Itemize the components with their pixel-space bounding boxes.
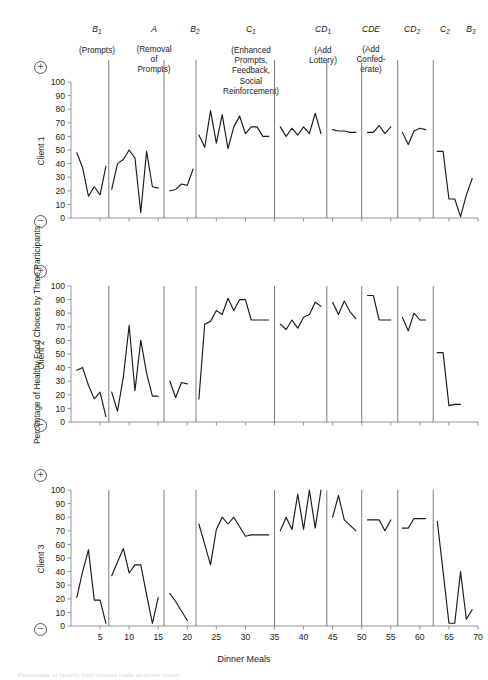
x-tick-label: 5	[98, 632, 103, 642]
y-tick-label: 50	[55, 349, 65, 359]
figure-caption: Percentage of healthy food choices made …	[18, 672, 470, 678]
y-tick-label: 20	[55, 390, 65, 400]
y-tick-label: 80	[55, 308, 65, 318]
y-tick-label: 60	[55, 540, 65, 550]
x-tick-label: 20	[183, 632, 193, 642]
data-series-client-3-CDE	[333, 495, 356, 530]
data-series-client-3-C1	[199, 517, 269, 565]
data-series-client-3-CD2	[368, 520, 391, 531]
x-tick-label: 70	[473, 632, 483, 642]
y-tick-label: 0	[60, 213, 65, 223]
x-tick-label: 50	[357, 632, 367, 642]
y-tick-label: 20	[55, 594, 65, 604]
data-series-client-1-CD1	[280, 113, 321, 136]
x-axis-label: Dinner Meals	[0, 654, 488, 664]
y-tick-label: 80	[55, 104, 65, 114]
x-tick-label: 60	[415, 632, 425, 642]
y-tick-label: 90	[55, 91, 65, 101]
y-tick-label: 100	[51, 77, 66, 87]
y-tick-label: 30	[55, 580, 65, 590]
x-tick-label: 55	[386, 632, 396, 642]
data-series-client-2-C2	[402, 313, 425, 331]
y-tick-label: 60	[55, 132, 65, 142]
data-series-client-2-C1	[199, 298, 269, 399]
panel-3: 0102030405060708090100510152025303540455…	[51, 485, 483, 642]
y-tick-label: 10	[55, 608, 65, 618]
panel-1: 0102030405060708090100	[51, 60, 478, 223]
x-tick-label: 30	[241, 632, 251, 642]
data-series-client-2-CDE	[333, 301, 356, 319]
y-tick-label: 40	[55, 159, 65, 169]
y-tick-label: 30	[55, 376, 65, 386]
y-tick-label: 90	[55, 295, 65, 305]
data-series-client-3-A	[112, 548, 159, 623]
data-series-client-1-CDE	[333, 130, 356, 133]
data-series-client-1-C1	[199, 111, 269, 149]
x-tick-label: 45	[328, 632, 338, 642]
data-series-client-1-A	[112, 150, 159, 213]
data-series-client-3-C2	[402, 519, 425, 529]
data-series-client-3-B1	[77, 550, 106, 623]
data-series-client-2-B3	[437, 353, 460, 406]
y-tick-label: 30	[55, 172, 65, 182]
data-series-client-1-CD2	[368, 126, 391, 134]
y-tick-label: 10	[55, 200, 65, 210]
y-tick-label: 50	[55, 553, 65, 563]
y-tick-label: 70	[55, 322, 65, 332]
data-series-client-3-CD1	[280, 490, 321, 531]
y-tick-label: 20	[55, 186, 65, 196]
data-series-client-3-B2	[170, 593, 187, 620]
y-tick-label: 90	[55, 499, 65, 509]
x-tick-label: 10	[124, 632, 134, 642]
y-tick-label: 40	[55, 363, 65, 373]
data-series-client-1-B2	[170, 169, 193, 191]
y-tick-label: 0	[60, 417, 65, 427]
data-series-client-1-C2	[402, 128, 425, 144]
x-tick-label: 25	[212, 632, 222, 642]
data-series-client-1-B1	[77, 153, 106, 197]
x-tick-label: 65	[444, 632, 454, 642]
data-series-client-3-B3	[437, 521, 472, 623]
y-tick-label: 70	[55, 526, 65, 536]
data-series-client-2-A	[112, 325, 159, 411]
y-tick-label: 0	[60, 621, 65, 631]
x-tick-label: 40	[299, 632, 309, 642]
y-tick-label: 50	[55, 145, 65, 155]
y-tick-label: 70	[55, 118, 65, 128]
data-series-client-1-B3	[437, 151, 472, 216]
data-series-client-2-CD1	[280, 302, 321, 329]
y-tick-label: 40	[55, 567, 65, 577]
panel-2: 0102030405060708090100	[51, 281, 478, 427]
plot-canvas: 0102030405060708090100010203040506070809…	[0, 0, 488, 680]
y-tick-label: 100	[51, 485, 66, 495]
y-tick-label: 80	[55, 512, 65, 522]
figure-root: B1 (Prompts) A (Removal of Prompts) B2 C…	[0, 0, 488, 680]
y-tick-label: 10	[55, 404, 65, 414]
x-tick-label: 35	[270, 632, 280, 642]
data-series-client-2-CD2	[368, 296, 391, 320]
data-series-client-2-B1	[77, 368, 106, 417]
y-tick-label: 100	[51, 281, 66, 291]
y-tick-label: 60	[55, 336, 65, 346]
x-tick-label: 15	[153, 632, 163, 642]
data-series-client-2-B2	[170, 381, 187, 397]
